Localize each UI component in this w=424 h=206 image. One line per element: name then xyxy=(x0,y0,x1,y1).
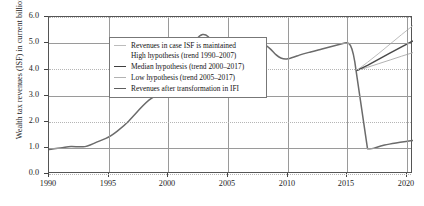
legend-label-group: Revenues in case ISF is maintained High … xyxy=(131,41,236,60)
x-tick-label: 1990 xyxy=(28,179,68,188)
plot-area: Revenues in case ISF is maintained High … xyxy=(48,16,412,173)
y-tick-label: 0.0 xyxy=(13,168,39,177)
legend-swatch-line-icon xyxy=(113,73,127,83)
gridline-horizontal-minor xyxy=(49,174,411,175)
x-tick-label: 1995 xyxy=(88,179,128,188)
y-tick-label: 2.0 xyxy=(13,116,39,125)
legend-swatch-line-icon xyxy=(113,84,127,94)
legend-label: Low hypothesis (trend 2005–2017) xyxy=(131,73,235,83)
legend-swatch-line-icon xyxy=(113,41,127,51)
legend-label: Median hypothesis (trend 2000–2017) xyxy=(131,62,244,72)
series-median-hypothesis xyxy=(356,41,413,71)
y-tick-label: 1.0 xyxy=(13,142,39,151)
gridline-horizontal xyxy=(49,148,411,149)
gridline-horizontal-minor xyxy=(49,122,411,123)
legend-label-second-line: High hypothesis (trend 1990–2007) xyxy=(131,51,236,61)
y-tick-label: 3.0 xyxy=(13,90,39,99)
series-high-hypothesis xyxy=(356,26,413,71)
x-tick-label: 2020 xyxy=(386,179,424,188)
x-tick-label: 2005 xyxy=(207,179,247,188)
legend-item-high-hypothesis: Revenues in case ISF is maintained High … xyxy=(113,41,262,61)
chart-legend: Revenues in case ISF is maintained High … xyxy=(109,37,267,98)
legend-item-median-hypothesis: Median hypothesis (trend 2000–2017) xyxy=(113,61,262,72)
y-tick-label: 4.0 xyxy=(13,64,39,73)
chart-figure: Wealth tax revenues (ISF) in current bil… xyxy=(0,0,424,206)
x-tick-label: 2015 xyxy=(326,179,366,188)
legend-swatch-line-icon xyxy=(113,62,127,72)
x-tick-label: 2000 xyxy=(147,179,187,188)
legend-label: Revenues in case ISF is maintained xyxy=(131,41,236,51)
legend-item-low-hypothesis: Low hypothesis (trend 2005–2017) xyxy=(113,72,262,83)
x-tick-label: 2010 xyxy=(267,179,307,188)
y-tick-label: 5.0 xyxy=(13,37,39,46)
gridline-horizontal-minor xyxy=(49,17,411,18)
legend-item-revenues-after-ifi: Revenues after transformation in IFI xyxy=(113,83,262,94)
legend-label: Revenues after transformation in IFI xyxy=(131,84,239,94)
y-tick-label: 6.0 xyxy=(13,11,39,20)
